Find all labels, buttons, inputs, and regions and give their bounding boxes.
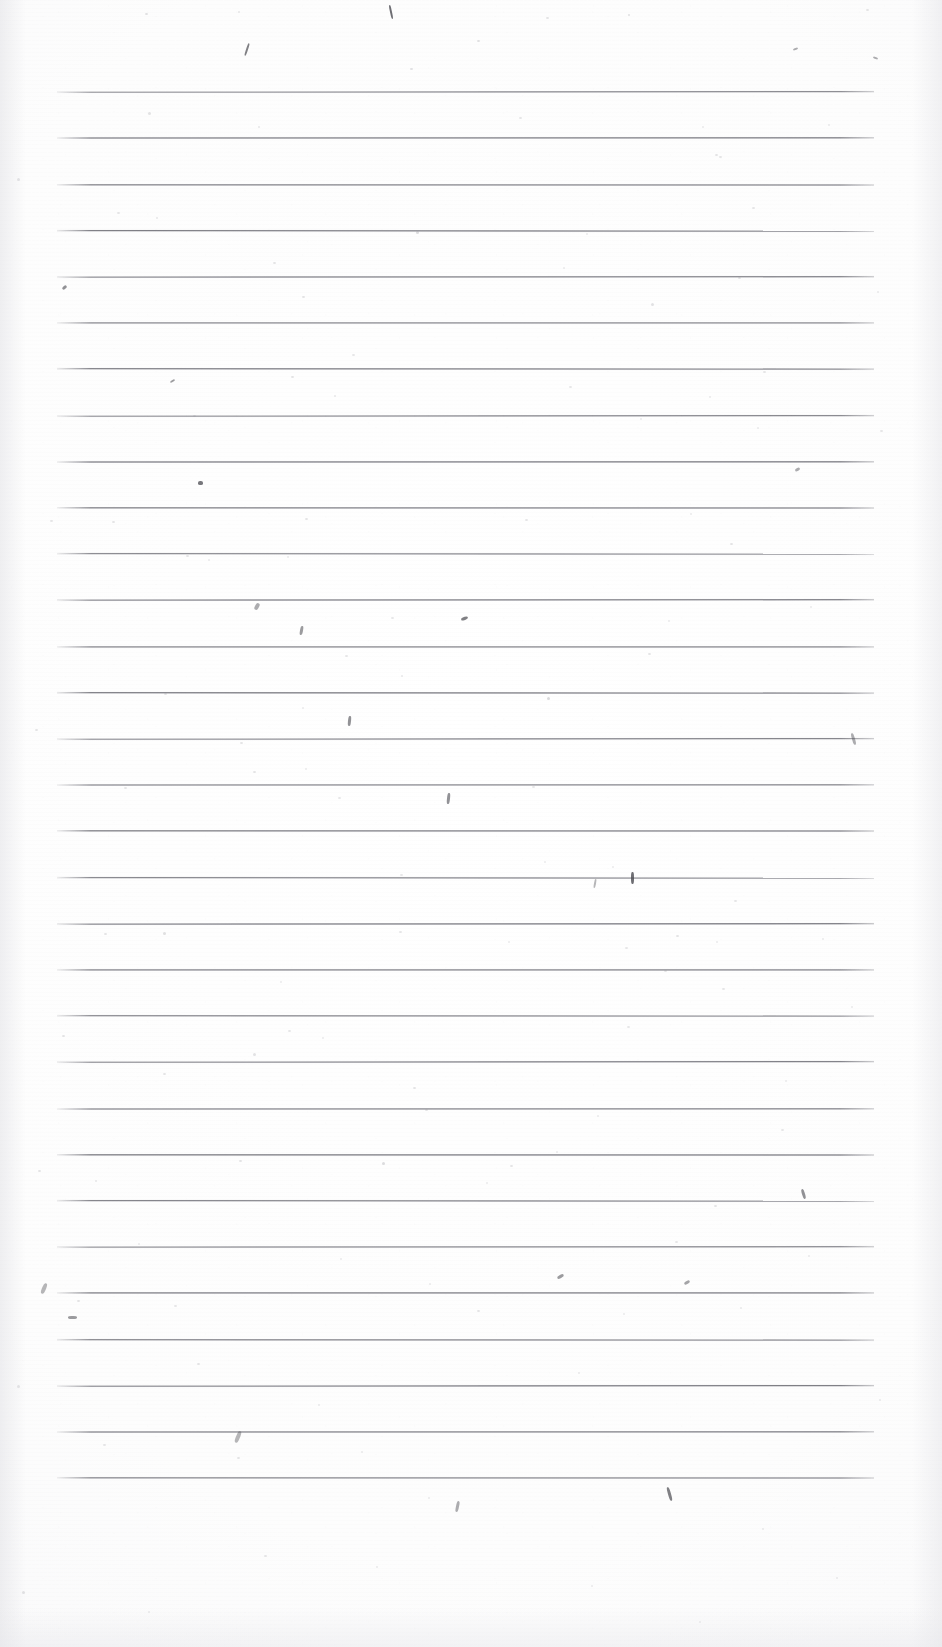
scanned-page: [0, 0, 942, 1647]
writing-area: [0, 0, 942, 1647]
